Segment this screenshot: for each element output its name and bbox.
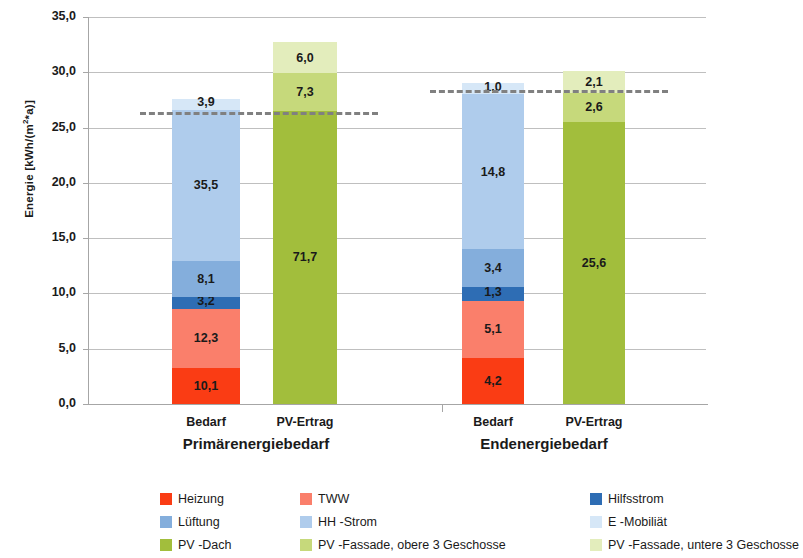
y-axis-tick-label: 5,0: [12, 341, 76, 355]
legend-label: Heizung: [178, 492, 224, 506]
bar-segment[interactable]: 35,5: [172, 110, 240, 261]
reference-line-ref-end: [430, 90, 668, 93]
bar-segment[interactable]: 7,3: [273, 73, 337, 111]
legend-item[interactable]: PV -Fassade, obere 3 Geschosse: [300, 538, 590, 552]
legend-swatch-icon: [160, 516, 172, 528]
legend-item[interactable]: PV -Dach: [160, 538, 300, 552]
chart-legend: HeizungTWWHilfsstromLüftungHH -StromE -M…: [160, 487, 720, 556]
bar-segment[interactable]: 12,3: [172, 309, 240, 368]
legend-swatch-icon: [590, 516, 602, 528]
x-axis-group-label: Endenergiebedarf: [434, 435, 654, 452]
bar-segment[interactable]: 25,6: [563, 122, 625, 404]
legend-item[interactable]: TWW: [300, 492, 590, 506]
bar-segment-value: 35,5: [194, 179, 218, 192]
bar-segment[interactable]: 5,1: [462, 301, 524, 357]
legend-swatch-icon: [300, 493, 312, 505]
bar-segment[interactable]: 3,9: [172, 99, 240, 110]
plot-area: 10,112,33,28,135,53,971,77,36,04,25,11,3…: [88, 17, 706, 404]
legend-item[interactable]: Hilfsstrom: [590, 492, 803, 506]
bar-primaer-bedarf[interactable]: 10,112,33,28,135,53,9: [172, 99, 240, 404]
bar-segment[interactable]: 3,4: [462, 249, 524, 287]
bar-end-pv[interactable]: 25,62,62,1: [563, 71, 625, 404]
legend-swatch-icon: [300, 516, 312, 528]
bar-segment[interactable]: 8,1: [172, 261, 240, 296]
bar-segment[interactable]: 1,3: [462, 287, 524, 301]
bar-segment[interactable]: 4,2: [462, 358, 524, 404]
bar-segment-value: 4,2: [484, 375, 501, 388]
y-axis-title: Energie [kWh/(m2*a)]: [21, 59, 35, 259]
bar-segment-value: 8,1: [197, 273, 214, 286]
x-axis-group-label: Primärenergiebedarf: [146, 435, 366, 452]
bar-segment[interactable]: 71,7: [273, 111, 337, 404]
legend-swatch-icon: [590, 493, 602, 505]
y-axis-tick-label: 0,0: [12, 396, 76, 410]
legend-swatch-icon: [160, 493, 172, 505]
y-axis-tick-label: 15,0: [12, 230, 76, 244]
bar-segment[interactable]: 2,6: [563, 93, 625, 122]
legend-item[interactable]: HH -Strom: [300, 515, 590, 529]
bar-segment-value: 3,9: [197, 96, 214, 109]
y-axis-tick-label: 25,0: [12, 120, 76, 134]
legend-label: Lüftung: [178, 515, 220, 529]
legend-swatch-icon: [590, 539, 602, 551]
bar-segment[interactable]: 3,2: [172, 297, 240, 309]
x-axis-category-label: PV-Ertrag: [235, 415, 375, 429]
x-axis-group-tick: [442, 404, 443, 412]
legend-label: TWW: [318, 492, 349, 506]
bar-segment-value: 2,6: [585, 101, 602, 114]
bar-primaer-pv[interactable]: 71,77,36,0: [273, 42, 337, 404]
y-axis-tick-label: 20,0: [12, 175, 76, 189]
bar-segment-value: 12,3: [194, 332, 218, 345]
reference-line-ref-primaer: [140, 112, 378, 115]
bar-segment[interactable]: 6,0: [273, 42, 337, 73]
bar-segment-value: 6,0: [296, 52, 313, 65]
bar-segment-value: 10,1: [194, 380, 218, 393]
y-axis-tick-label: 30,0: [12, 64, 76, 78]
legend-item[interactable]: E -Mobiliät: [590, 515, 803, 529]
bar-segment-value: 2,1: [585, 76, 602, 89]
legend-swatch-icon: [160, 539, 172, 551]
legend-item[interactable]: Heizung: [160, 492, 300, 506]
bar-segment[interactable]: 10,1: [172, 368, 240, 404]
bar-segment-value: 7,3: [296, 86, 313, 99]
x-axis-category-label: PV-Ertrag: [524, 415, 664, 429]
bar-segment-value: 1,3: [484, 286, 501, 299]
legend-item[interactable]: Lüftung: [160, 515, 300, 529]
legend-label: Hilfsstrom: [608, 492, 664, 506]
bar-segment-value: 71,7: [293, 251, 317, 264]
bar-segment[interactable]: 14,8: [462, 94, 524, 249]
legend-label: HH -Strom: [318, 515, 377, 529]
bar-segment-value: 14,8: [481, 166, 505, 179]
y-axis-tick-label: 35,0: [12, 9, 76, 23]
bar-segment-value: 25,6: [582, 257, 606, 270]
legend-item[interactable]: PV -Fassade, untere 3 Geschosse: [590, 538, 803, 552]
x-axis-line: [88, 404, 708, 405]
y-axis-tick-label: 10,0: [12, 285, 76, 299]
legend-label: E -Mobiliät: [608, 515, 667, 529]
bar-end-bedarf[interactable]: 4,25,11,33,414,81,0: [462, 83, 524, 404]
legend-label: PV -Fassade, untere 3 Geschosse: [608, 538, 799, 552]
bar-segment-value: 5,1: [484, 323, 501, 336]
legend-label: PV -Dach: [178, 538, 232, 552]
bar-segment-value: 3,4: [484, 262, 501, 275]
legend-swatch-icon: [300, 539, 312, 551]
legend-label: PV -Fassade, obere 3 Geschosse: [318, 538, 506, 552]
